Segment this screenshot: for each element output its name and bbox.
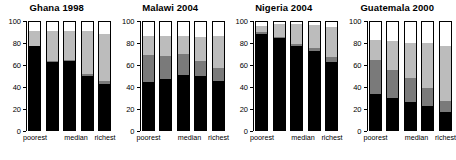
y-axis-tick-label: 100 [342,17,362,26]
chart-panel: Ghana 1998020406080100poorestmedianriche… [0,0,114,160]
y-axis-tick [250,131,253,132]
bar-segment-white [405,22,416,43]
y-axis-tick-label: 80 [115,39,135,48]
bar-segment-light-gray [326,27,337,56]
y-axis-tick [137,43,140,44]
bar-segment-white [29,22,40,31]
x-axis-labels: poorestmedianrichest [367,133,452,153]
panel-title: Malawi 2004 [114,2,228,13]
y-axis-tick-label: 20 [342,105,362,114]
y-axis-tick [23,43,26,44]
x-axis-labels: poorestmedianrichest [26,133,111,153]
y-axis-tick-label: 0 [1,127,21,136]
bar-segment-black [99,84,110,130]
bar-segment-black [274,38,285,130]
bar-segment-black [405,102,416,130]
panel-title: Guatemala 2000 [341,2,455,13]
bar-segment-white [195,22,206,37]
stacked-bar [81,21,94,131]
bar-segment-black [370,94,381,130]
bar-segment-dark-gray [195,61,206,76]
plot-area: 020406080100 [140,21,225,131]
x-axis-tick-label: median [405,133,429,142]
chart-panel: Nigeria 2004020406080100poorestmedianric… [227,0,341,160]
bar-segment-light-gray [82,31,93,74]
y-axis-tick-label: 40 [228,83,248,92]
x-axis-tick-label: richest [94,133,115,142]
bar-segment-light-gray [422,43,433,88]
bar-segment-dark-gray [440,101,451,112]
y-axis-tick-label: 40 [115,83,135,92]
y-axis-tick-label: 80 [228,39,248,48]
y-axis-tick [250,43,253,44]
y-axis-tick-label: 60 [228,61,248,70]
bar-segment-black [160,79,171,130]
y-axis-tick-label: 80 [1,39,21,48]
bar-segment-black [387,98,398,130]
bar-segment-light-gray [440,46,451,101]
bar-segment-dark-gray [160,56,171,80]
bar-segment-white [178,22,189,36]
stacked-bar [159,21,172,131]
x-axis-tick-label: poorest [250,133,274,142]
x-axis-tick-label: poorest [364,133,388,142]
plot-area: 020406080100 [253,21,338,131]
y-axis-tick-label: 40 [342,83,362,92]
bar-segment-light-gray [99,34,110,82]
panel-title: Nigeria 2004 [227,2,341,13]
chart-panel: Malawi 2004020406080100poorestmedianrich… [114,0,228,160]
y-axis-tick [137,65,140,66]
bar-group [369,21,452,131]
bar-segment-dark-gray [178,54,189,75]
bar-segment-white [440,22,451,46]
bar-segment-light-gray [274,24,285,37]
y-axis-tick-label: 40 [1,83,21,92]
stacked-bar [404,21,417,131]
stacked-bar [255,21,268,131]
stacked-bar [290,21,303,131]
y-axis-tick [23,87,26,88]
bar-segment-white [370,22,381,40]
stacked-bar [439,21,452,131]
y-axis-tick-label: 0 [342,127,362,136]
bar-group [142,21,225,131]
bar-segment-light-gray [143,36,154,55]
y-axis-tick-label: 100 [1,17,21,26]
bar-segment-black [82,76,93,130]
y-axis-tick [23,109,26,110]
plot-area: 020406080100 [26,21,111,131]
y-axis-line [253,21,254,131]
bar-segment-dark-gray [143,55,154,82]
x-axis-tick-label: richest [321,133,342,142]
x-axis-tick-label: median [291,133,315,142]
bar-segment-black [309,51,320,130]
stacked-bar [369,21,382,131]
x-axis-tick-label: poorest [137,133,161,142]
y-axis-tick-label: 20 [115,105,135,114]
stacked-bar [273,21,286,131]
y-axis-tick [137,87,140,88]
stacked-bar [308,21,321,131]
bar-segment-black [256,34,267,130]
bar-segment-light-gray [291,24,302,43]
y-axis-tick-label: 60 [115,61,135,70]
y-axis-tick-label: 60 [342,61,362,70]
chart-panel: Guatemala 2000020406080100poorestmedianr… [341,0,455,160]
stacked-bar [421,21,434,131]
bar-segment-dark-gray [213,68,224,81]
bar-segment-light-gray [405,43,416,79]
x-axis-tick-label: median [64,133,88,142]
bar-segment-light-gray [195,37,206,61]
y-axis-tick [250,65,253,66]
bar-segment-light-gray [178,36,189,54]
bar-group [255,21,338,131]
bar-segment-white [47,22,58,31]
plot-area: 020406080100 [367,21,452,131]
bar-segment-light-gray [309,25,320,48]
bar-segment-white [99,22,110,34]
y-axis-tick [23,131,26,132]
y-axis-tick [137,131,140,132]
bar-segment-black [64,61,75,130]
stacked-bar [28,21,41,131]
